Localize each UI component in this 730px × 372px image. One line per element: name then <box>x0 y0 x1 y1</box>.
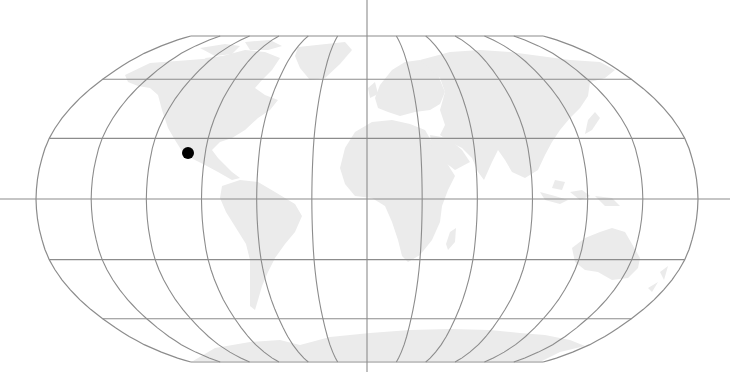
location-marker-dot <box>182 147 194 159</box>
indonesia <box>540 180 620 206</box>
north-america <box>125 50 280 180</box>
australia <box>572 228 640 280</box>
land-masses <box>125 40 668 361</box>
madagascar <box>446 228 456 250</box>
japan <box>585 112 600 134</box>
world-map <box>0 0 730 372</box>
markers <box>182 147 194 159</box>
antarctica <box>193 329 585 361</box>
greenland <box>295 42 352 80</box>
